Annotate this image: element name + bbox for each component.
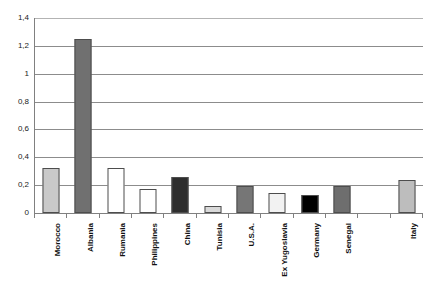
y-axis-tick-label: 1 <box>1 70 29 78</box>
x-axis-tick <box>260 214 261 218</box>
bar-slot <box>294 18 326 213</box>
x-axis-tick-label-text: Italy <box>410 223 418 239</box>
plot-area <box>34 18 423 214</box>
x-axis-tick-label: Italy <box>406 219 414 235</box>
x-axis-tick-label: Germany <box>309 219 317 254</box>
bar[interactable] <box>140 189 157 213</box>
x-axis-tick-label-text: China <box>184 223 192 245</box>
bar[interactable] <box>398 180 415 213</box>
y-axis-tick-label: 0,6 <box>1 125 29 133</box>
y-axis-tick-label: 0,8 <box>1 98 29 106</box>
x-axis-tick-label-text: Rumania <box>119 223 127 257</box>
bar[interactable] <box>204 206 221 213</box>
x-axis-tick-label: Morocco <box>50 219 58 252</box>
x-axis-tick-label-text: Morocco <box>54 223 62 256</box>
x-axis-tick <box>325 214 326 218</box>
bar[interactable] <box>172 177 189 213</box>
bar-slot <box>326 18 358 213</box>
x-axis-tick <box>34 214 35 218</box>
bar-slot <box>35 18 67 213</box>
x-axis-tick-label-text: Albania <box>87 223 95 252</box>
x-axis-tick-label-text: Philippines <box>151 223 159 266</box>
bar-series <box>35 18 423 213</box>
y-axis-tick-label: 1,2 <box>1 42 29 50</box>
bar[interactable] <box>107 168 124 213</box>
x-axis-tick <box>131 214 132 218</box>
x-axis-tick-label: Senegal <box>341 219 349 250</box>
x-axis-tick <box>228 214 229 218</box>
x-axis-tick-label: Tunisia <box>212 219 220 246</box>
y-axis-tick-label: 0 <box>1 209 29 217</box>
x-axis-tick-label: China <box>180 219 188 241</box>
x-axis-tick-label-text: Senegal <box>345 223 353 254</box>
y-axis-tick-label: 1,4 <box>1 14 29 22</box>
bar[interactable] <box>237 186 254 213</box>
x-axis-tick <box>357 214 358 218</box>
x-axis-tick-label: Philippines <box>147 219 155 262</box>
x-axis-tick <box>422 214 423 218</box>
x-axis-tick-label: Rumania <box>115 219 123 253</box>
y-axis-tick-label: 0,4 <box>1 153 29 161</box>
x-axis-tick <box>66 214 67 218</box>
y-axis-tick-label: 0,2 <box>1 181 29 189</box>
x-axis-tick-label: Ex Yugoslavia <box>277 219 285 273</box>
bar[interactable] <box>301 195 318 213</box>
x-axis-tick-label-text: Tunisia <box>216 223 224 250</box>
bar-slot <box>100 18 132 213</box>
x-axis-tick-label-text: Germany <box>313 223 321 258</box>
bar-slot <box>261 18 293 213</box>
bar[interactable] <box>43 168 60 213</box>
x-axis-tick-label-text: Ex Yugoslavia <box>281 223 289 277</box>
x-axis-tick <box>390 214 391 218</box>
x-axis-tick-label: U.S.A. <box>244 219 252 243</box>
x-axis-tick <box>99 214 100 218</box>
x-axis-tick-label-text: U.S.A. <box>248 223 256 247</box>
bar[interactable] <box>75 39 92 213</box>
bar-slot <box>229 18 261 213</box>
bar-slot <box>197 18 229 213</box>
x-axis-tick <box>293 214 294 218</box>
bar-slot <box>391 18 423 213</box>
bar-chart: 00,20,40,60,811,21,4 MoroccoAlbaniaRuman… <box>0 0 428 295</box>
x-axis-tick <box>196 214 197 218</box>
x-axis-tick <box>163 214 164 218</box>
bar-slot <box>67 18 99 213</box>
bar-slot <box>358 18 390 213</box>
bar-slot <box>132 18 164 213</box>
x-axis-tick-label: Albania <box>83 219 91 248</box>
bar[interactable] <box>269 193 286 213</box>
y-axis-labels: 00,20,40,60,811,21,4 <box>0 0 32 295</box>
bar[interactable] <box>334 186 351 213</box>
bar-slot <box>164 18 196 213</box>
x-axis-labels: MoroccoAlbaniaRumaniaPhilippinesChinaTun… <box>34 219 423 295</box>
